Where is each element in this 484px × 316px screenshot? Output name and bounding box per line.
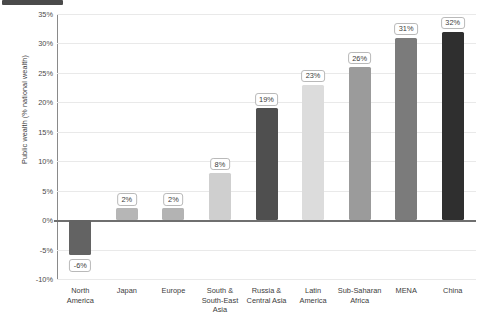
bar-value-label: 26% xyxy=(348,52,372,64)
bar-value-label: 8% xyxy=(210,158,230,170)
bar[interactable] xyxy=(162,208,184,220)
y-axis-tick-label: 10% xyxy=(1,157,53,166)
y-axis-tick-label: 20% xyxy=(1,98,53,107)
gridline xyxy=(57,279,476,280)
bar[interactable] xyxy=(256,108,278,220)
y-axis-tick-label: 5% xyxy=(1,186,53,195)
y-axis-tick-label: 0% xyxy=(1,216,53,225)
bar[interactable] xyxy=(69,220,91,255)
bar-value-label: 19% xyxy=(255,93,279,105)
plot-area: -6%2%2%8%19%23%26%31%32% xyxy=(57,14,476,279)
bar[interactable] xyxy=(442,32,464,220)
y-axis-tick-label: -5% xyxy=(1,245,53,254)
bar-value-label: 2% xyxy=(117,193,137,205)
bar-value-label: 32% xyxy=(441,17,465,29)
y-axis-tick-label: 30% xyxy=(1,39,53,48)
bar-value-label: 23% xyxy=(301,70,325,82)
gridline xyxy=(57,250,476,251)
y-axis-tick-labels: 35%30%25%20%15%10%5%0%-5%-10% xyxy=(0,14,53,279)
bar-value-label: 2% xyxy=(164,193,184,205)
bar[interactable] xyxy=(209,173,231,220)
bar-chart: Public wealth (% national wealth) 35%30%… xyxy=(0,0,484,316)
gridline xyxy=(57,14,476,15)
bar[interactable] xyxy=(349,67,371,220)
bar-value-label: 31% xyxy=(394,23,418,35)
bar-value-label: -6% xyxy=(69,259,91,271)
y-axis-tick-label: 25% xyxy=(1,68,53,77)
bar[interactable] xyxy=(395,38,417,221)
bar[interactable] xyxy=(302,85,324,220)
y-axis-tick-label: 15% xyxy=(1,127,53,136)
x-axis-category-labels: North AmericaJapanEuropeSouth & South-Ea… xyxy=(57,286,476,316)
x-axis-category-label: China xyxy=(422,286,484,296)
y-axis-tick-label: -10% xyxy=(1,275,53,284)
zero-baseline xyxy=(54,220,476,221)
y-axis-tick-label: 35% xyxy=(1,10,53,19)
bar[interactable] xyxy=(116,208,138,220)
